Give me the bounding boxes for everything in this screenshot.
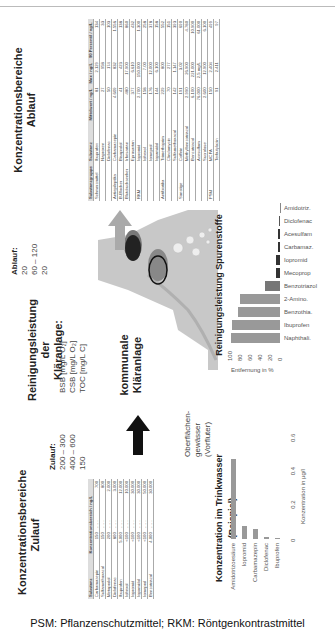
zulauf-cell-min: 4.000 — [148, 530, 154, 555]
trinkwasser-category-label: Carbamazepin — [252, 543, 258, 599]
trinkwasser-chart: AmidotrizoesäureIopromidCarbamazepinDicl… — [230, 429, 320, 599]
x-tick-label: 0.6 — [290, 434, 296, 442]
spurenstoffe-bar — [278, 242, 281, 252]
parameter-list: BSB [mg/L O₂] CSB [mg/L O₂] TOC [mg/L C] — [58, 341, 88, 393]
y-tick-label: 20 — [267, 354, 273, 361]
spurenstoffe-bar — [280, 203, 281, 213]
zulauf-toc: 150 — [78, 434, 88, 470]
ablauf-header-gruppe: Substanzgruppe — [88, 163, 94, 201]
ablauf-values: Ablauf: 20 60 – 120 20 — [10, 244, 50, 275]
ablauf-csb: 60 – 120 — [30, 244, 40, 275]
trinkwasser-category-label: Diclofenac — [263, 543, 269, 599]
spurenstoffe-category-label: Carbamaz. — [284, 244, 313, 250]
y-tick-label: 0 — [277, 358, 283, 361]
spurenstoffe-category-label: Ibuprofen — [284, 322, 309, 328]
ablauf-header-mittel: Mittelwert / ng/L — [88, 85, 94, 122]
zulauf-values: Zulauf: 200 – 300 400 – 600 150 — [48, 434, 88, 470]
x-tick-label: 0 — [290, 539, 296, 542]
spurenstoffe-category-label: Benzothia. — [284, 309, 312, 315]
trinkwasser-category-label: Ibuprofen — [274, 543, 280, 599]
spurenstoffe-bar — [240, 294, 280, 304]
spurenstoffe-bar — [276, 268, 280, 278]
ablauf-cell-mittel: 91 — [214, 85, 220, 122]
spurenstoffe-category-label: Naphthali. — [284, 335, 311, 341]
trinkwasser-bar — [275, 538, 280, 539]
infographic-landscape: Konzentrationsbereiche Zulauf Substanz K… — [8, 15, 328, 605]
y-tick-label: 80 — [237, 354, 243, 361]
trinkwasser-category-label: Amidotrizoesäure — [230, 543, 236, 599]
zulauf-title: Konzentrationsbereiche Zulauf — [16, 475, 42, 595]
param-bsb: BSB [mg/L O₂] — [58, 341, 68, 393]
zulauf-cell-max: 30.000 — [148, 479, 154, 509]
water-label: Oberflächen- gewässer (Vorfluter) — [183, 397, 213, 457]
zulauf-table-row: Benzotriazol4.000……30.000 — [148, 479, 154, 599]
top-rule — [0, 6, 335, 7]
ablauf-table-row: Terbutylazin912.41197 — [214, 19, 220, 201]
spurenstoffe-bar — [238, 307, 281, 317]
y-tick-label: 40 — [257, 354, 263, 361]
y-tick-label: 100 — [227, 351, 233, 361]
ablauf-title-line2: Ablauf — [25, 25, 38, 195]
y-axis-label: Entfernung in % — [231, 367, 274, 373]
ablauf-cell-gruppe — [214, 163, 220, 201]
param-toc: TOC [mg/L C] — [78, 341, 88, 393]
trinkwasser-bar — [242, 526, 247, 539]
water-label-line1: Oberflächen- — [183, 397, 193, 457]
ablauf-cell-gruppe: Blutdrucksenker — [124, 163, 130, 201]
zulauf-cell-substanz: Benzotriazol — [148, 556, 154, 599]
zulauf-csb: 400 – 600 — [68, 434, 78, 470]
ablauf-cell-p90: 97 — [214, 19, 220, 60]
spurenstoffe-category-label: Mecoprop — [284, 270, 311, 276]
ablauf-title-line1: Konzentrationsbereiche — [12, 25, 25, 195]
x-tick-label: 0.2 — [290, 500, 296, 508]
spurenstoffe-bar — [232, 320, 280, 330]
spurenstoffe-category-label: Diclofenac — [284, 218, 312, 224]
gray-arrow-icon — [108, 210, 136, 250]
trinkwasser-category-label: Iopromid — [241, 543, 247, 599]
water-label-line2: gewässer (Vorfluter) — [193, 397, 213, 457]
black-arrow-icon — [126, 415, 154, 455]
spurenstoffe-bar — [278, 229, 280, 239]
ablauf-toc: 20 — [40, 244, 50, 275]
trinkwasser-bar — [264, 537, 269, 539]
spurenstoffe-chart: Naphthali.IbuprofenBenzothia.2-Amino.Ben… — [226, 198, 326, 373]
spurenstoffe-category-label: Benzotriazol — [284, 283, 317, 289]
ablauf-table: Substanzgruppe Substanz Mittelwert / ng/… — [88, 19, 220, 201]
spurenstoffe-bar — [231, 333, 280, 343]
y-tick-label: 60 — [247, 354, 253, 361]
spurenstoffe-bar — [265, 281, 280, 291]
zulauf-label: Zulauf: — [48, 434, 58, 470]
spurenstoffe-bar — [279, 216, 280, 226]
range-separator: …… — [148, 509, 154, 531]
ablauf-cell-substanz: Methylbenzotriazol — [184, 123, 190, 163]
spurenstoffe-category-label: Amidotriz. — [284, 205, 311, 211]
trinkwasser-bar — [253, 529, 258, 539]
ablauf-header-p90: 90 Perzentil / ng/L — [88, 19, 94, 60]
zulauf-table: Substanz Konzentrationsbereich / ng/L Ca… — [88, 479, 154, 599]
x-axis-label: Konzentration in µg/l — [300, 469, 306, 524]
zulauf-bsb: 200 – 300 — [58, 434, 68, 470]
ablauf-cell-max: 2.411 — [214, 60, 220, 85]
ablauf-bsb: 20 — [20, 244, 30, 275]
zulauf-title-line2: Zulauf — [29, 475, 42, 595]
zulauf-title-line1: Konzentrationsbereiche — [16, 475, 29, 595]
spurenstoffe-category-label: Acesulfam — [284, 231, 312, 237]
spurenstoffe-bar — [276, 255, 280, 265]
reinigung-title-line1: Reinigungsleistung der — [26, 295, 52, 405]
spurenstoffe-chart-title: Reinigungsleistung Spurenstoffe — [213, 195, 226, 375]
ablauf-title: Konzentrationsbereiche Ablauf — [12, 25, 38, 195]
ablauf-cell-substanz: Terbutylazin — [214, 123, 220, 163]
ablauf-label: Ablauf: — [10, 244, 20, 275]
spurenstoffe-category-label: Iopromid — [284, 257, 307, 263]
footer-legend: PSM: Pflanzenschutzmittel; RKM: Röntgenk… — [0, 617, 335, 629]
trinkwasser-bar — [231, 459, 236, 539]
param-csb: CSB [mg/L O₂] — [68, 341, 78, 393]
spurenstoffe-category-label: 2-Amino. — [284, 296, 308, 302]
x-tick-label: 0.4 — [290, 467, 296, 475]
ablauf-header-max: Max / ng/L — [88, 60, 94, 85]
